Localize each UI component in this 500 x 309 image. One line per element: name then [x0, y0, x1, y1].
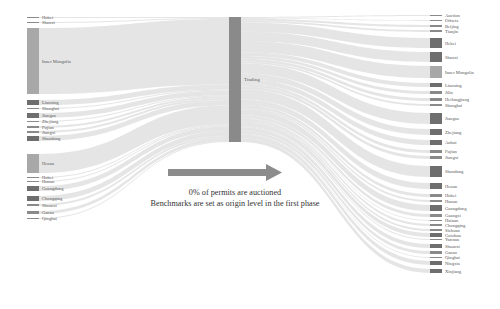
left-node-label: Liaoning: [42, 100, 59, 105]
left-node-fujian: [27, 126, 39, 128]
left-node-shaanxi: [27, 204, 39, 206]
left-node-shanxi: [27, 22, 39, 23]
right-node-label: Yunnan: [445, 237, 460, 242]
left-node-hunan: [27, 181, 39, 182]
right-node-label: Inner Mongolia: [445, 70, 474, 75]
right-node-label: Ningxia: [445, 261, 460, 266]
left-node-gansu: [27, 211, 39, 214]
right-node-liaoning: [430, 83, 442, 87]
right-node-jiangsu: [430, 113, 442, 124]
right-flows: [241, 15, 430, 273]
right-node-chongqing: [430, 224, 442, 226]
right-node-label: Anhui: [445, 140, 457, 145]
flow-link: [241, 15, 430, 18]
right-node-hubei: [430, 194, 442, 197]
right-node-beijing: [430, 25, 442, 27]
right-node-fujian: [430, 150, 442, 153]
trading-node: [229, 17, 241, 142]
right-node-label: Henan: [445, 184, 458, 189]
right-node-label: Shaanxi: [445, 244, 461, 249]
right-node-label: Hubei: [445, 193, 457, 198]
left-node-label: Jiangsu: [42, 113, 56, 118]
caption-line-1: 0% of permits are auctioned: [110, 187, 360, 198]
left-node-jiangsu: [27, 113, 39, 118]
right-node-henan: [430, 183, 442, 189]
right-node-shanxi: [430, 52, 442, 62]
flow-link: [39, 17, 229, 18]
right-node-label: Jiangxi: [445, 155, 459, 160]
right-node-label: Heilongjiang: [445, 97, 470, 102]
left-node-chongqing: [27, 196, 39, 201]
left-node-label: Inner Mongolia: [42, 59, 71, 64]
right-node-label: Zhejiang: [445, 130, 462, 135]
left-node-hubei: [27, 177, 39, 178]
right-node-inner-mongolia: [430, 66, 442, 78]
right-node-guangdong: [430, 205, 442, 211]
sankey-diagram: HubeiShanxiInner MongoliaLiaoningShangha…: [0, 0, 500, 309]
right-node-shandong: [430, 166, 442, 177]
right-node-ningxia: [430, 261, 442, 265]
left-node-label: Shaanxi: [42, 203, 58, 208]
right-node-label: Jiangsu: [445, 116, 459, 121]
right-node-label: Jilin: [445, 90, 454, 95]
left-node-shanghai: [27, 108, 39, 109]
left-node-hubei: [27, 17, 39, 18]
right-node-hunan: [430, 200, 442, 202]
right-node-jiangxi: [430, 156, 442, 159]
right-node-xinjiang: [430, 269, 442, 273]
left-node-inner-mongolia: [27, 28, 39, 94]
right-node-label: Hunan: [445, 199, 458, 204]
left-node-label: Gansu: [42, 210, 54, 215]
right-node-auction: [430, 15, 442, 16]
left-node-label: Jiangxi: [42, 130, 56, 135]
left-node-label: Shanxi: [42, 20, 55, 25]
right-node-label: Liaoning: [445, 83, 462, 88]
right-node-qinghai: [430, 257, 442, 258]
arrow-icon: [168, 164, 282, 181]
right-node-heilongjiang: [430, 98, 442, 101]
right-node-zhejiang: [430, 129, 442, 135]
left-node-label: Zhejiang: [42, 119, 59, 124]
left-node-jiangxi: [27, 131, 39, 133]
left-node-label: Shanghai: [42, 106, 60, 111]
right-node-label: Shanghai: [445, 103, 463, 108]
right-node-label: Hebei: [445, 41, 457, 46]
left-node-henan: [27, 154, 39, 173]
right-node-label: Xinjiang: [445, 269, 462, 274]
right-node-jilin: [430, 91, 442, 94]
right-node-label: Shanxi: [445, 55, 458, 60]
right-node-guizhou: [430, 233, 442, 237]
left-node-qinghai: [27, 218, 39, 219]
left-node-label: Qinghai: [42, 216, 58, 221]
right-node-sichuan: [430, 229, 442, 231]
left-node-shandong: [27, 136, 39, 141]
right-node-shanghai: [430, 104, 442, 106]
right-node-tianjin: [430, 30, 442, 32]
left-node-label: Henan: [42, 161, 55, 166]
left-node-label: Hunan: [42, 179, 55, 184]
right-nodes: AuctionOffsetsBeijingTianjinHebeiShanxiI…: [430, 13, 474, 274]
right-node-hainan: [430, 220, 442, 221]
left-node-liaoning: [27, 100, 39, 105]
right-node-label: Offsets: [445, 18, 458, 23]
right-node-guangxi: [430, 214, 442, 217]
caption-line-2: Benchmarks are set as origin level in th…: [110, 198, 360, 209]
left-node-zhejiang: [27, 121, 39, 122]
right-node-label: Shandong: [445, 169, 464, 174]
flow-link: [39, 19, 229, 94]
right-node-offsets: [430, 20, 442, 21]
right-node-anhui: [430, 140, 442, 145]
left-node-label: Chongqing: [42, 196, 63, 201]
right-node-yunnan: [430, 239, 442, 240]
right-node-gansu: [430, 251, 442, 254]
left-node-label: Guangdong: [42, 186, 64, 191]
right-node-hebei: [430, 38, 442, 48]
left-node-label: Shandong: [42, 136, 61, 141]
right-node-label: Guangdong: [445, 206, 467, 211]
trading-label: Trading: [244, 77, 260, 82]
right-node-label: Tianjin: [445, 29, 459, 34]
right-node-shaanxi: [430, 244, 442, 248]
right-node-label: Fujian: [445, 149, 457, 154]
right-node-label: Qinghai: [445, 255, 461, 260]
left-node-guangdong: [27, 186, 39, 191]
